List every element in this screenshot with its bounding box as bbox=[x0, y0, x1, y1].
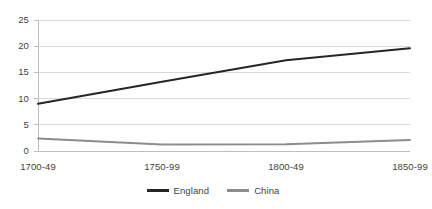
legend-item-england[interactable]: England bbox=[147, 185, 210, 196]
legend-label: China bbox=[254, 185, 279, 196]
x-tick-label: 1850-99 bbox=[370, 161, 432, 172]
y-tick-label: 0 bbox=[0, 146, 29, 156]
legend-item-china[interactable]: China bbox=[227, 185, 279, 196]
legend-line-swatch-icon bbox=[147, 189, 169, 191]
series-line-china bbox=[38, 138, 410, 144]
x-tick-label: 1750-99 bbox=[122, 161, 202, 172]
legend-label: England bbox=[174, 185, 210, 196]
data-series bbox=[38, 48, 410, 144]
legend-line-swatch-icon bbox=[227, 189, 249, 191]
y-tick-label: 20 bbox=[0, 41, 29, 51]
y-tick-label: 10 bbox=[0, 94, 29, 104]
y-tick-label: 25 bbox=[0, 15, 29, 25]
axis-lines bbox=[34, 20, 38, 151]
series-line-england bbox=[38, 48, 410, 104]
gridlines bbox=[38, 20, 410, 151]
x-tick-label: 1700-49 bbox=[0, 161, 78, 172]
chart-legend: EnglandChina bbox=[0, 185, 426, 196]
y-tick-label: 5 bbox=[0, 120, 29, 130]
x-tick-label: 1800-49 bbox=[246, 161, 326, 172]
y-tick-label: 15 bbox=[0, 67, 29, 77]
